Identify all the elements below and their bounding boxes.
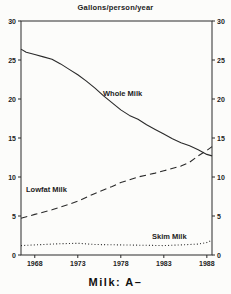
y-tick-label-left: 25 <box>8 57 16 64</box>
x-tick-label: 1988 <box>199 260 215 267</box>
y-tick-label-right: 20 <box>217 96 225 103</box>
x-tick-label: 1968 <box>27 260 43 267</box>
plot-border <box>21 21 212 255</box>
y-tick-label-right: 10 <box>217 174 225 181</box>
y-tick-label-right: 5 <box>217 213 221 220</box>
y-tick-label-left: 0 <box>12 252 16 259</box>
y-tick-label-left: 5 <box>12 213 16 220</box>
skim-milk-label: Skim Milk <box>152 232 187 241</box>
scanned-chart-page: Gallons/person/year 00551010151520202525… <box>0 0 231 294</box>
y-tick-label-right: 0 <box>217 252 221 259</box>
x-tick-label: 1973 <box>70 260 86 267</box>
whole-milk-line <box>21 49 212 156</box>
lowfat-milk-line <box>21 147 212 219</box>
y-tick-label-right: 30 <box>217 18 225 25</box>
x-tick-label: 1983 <box>156 260 172 267</box>
y-tick-label-left: 30 <box>8 18 16 25</box>
x-tick-label: 1978 <box>113 260 129 267</box>
y-tick-label-right: 15 <box>217 135 225 142</box>
y-tick-label-left: 10 <box>8 174 16 181</box>
chart-caption: Milk: A– <box>0 276 231 288</box>
milk-consumption-chart: 0055101015152020252530301968197319781983… <box>0 0 231 294</box>
lowfat-milk-label: Lowfat Milk <box>26 185 68 194</box>
skim-milk-line <box>21 240 212 245</box>
y-tick-label-left: 15 <box>8 135 16 142</box>
y-tick-label-right: 25 <box>217 57 225 64</box>
y-tick-label-left: 20 <box>8 96 16 103</box>
whole-milk-label: Whole Milk <box>103 89 143 98</box>
